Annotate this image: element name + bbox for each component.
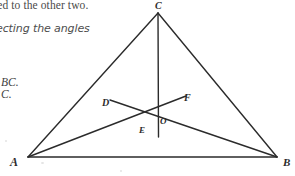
cevian-CE	[158, 13, 159, 137]
side-AC	[28, 13, 158, 157]
vertex-label-A: A	[10, 156, 18, 168]
scan-speckle	[120, 170, 122, 172]
point-label-E: E	[139, 126, 145, 135]
cevian-BD	[110, 100, 277, 157]
scan-speckle	[5, 140, 7, 142]
vertex-label-B: B	[283, 157, 290, 168]
point-label-O: O	[160, 117, 167, 126]
triangle-figure	[0, 0, 295, 176]
vertex-label-C: C	[155, 1, 162, 11]
figure-page: ted to the other two. ecting the angles …	[0, 0, 295, 176]
point-label-F: F	[184, 93, 191, 103]
point-label-D: D	[102, 98, 109, 108]
scan-speckle	[41, 162, 44, 164]
side-BC	[158, 13, 277, 157]
